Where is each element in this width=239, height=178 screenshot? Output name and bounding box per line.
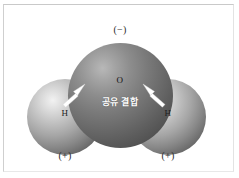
positive-charge-right-label: (+): [153, 150, 183, 161]
figure-container: O H H 공유 결합 (−) (+) (+): [0, 0, 239, 178]
hydrogen-right-symbol-label: H: [158, 108, 178, 118]
negative-charge-label: (−): [105, 24, 135, 35]
molecule-canvas: O H H 공유 결합 (−) (+) (+): [0, 0, 239, 178]
oxygen-symbol-label: O: [110, 75, 130, 85]
covalent-bond-caption: 공유 결합: [82, 95, 158, 108]
hydrogen-left-symbol-label: H: [55, 108, 75, 118]
positive-charge-left-label: (+): [50, 150, 80, 161]
